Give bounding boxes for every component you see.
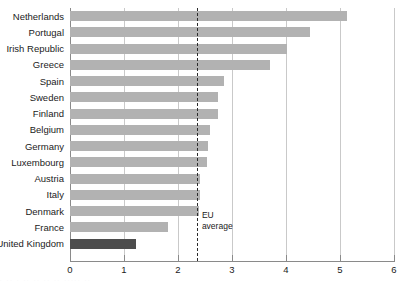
category-label-germany: Germany bbox=[25, 142, 64, 152]
bar-sweden bbox=[70, 92, 218, 102]
bar-irish-republic bbox=[70, 44, 287, 54]
plot-area: EU average bbox=[70, 8, 394, 261]
bar-row bbox=[70, 109, 394, 119]
category-label-greece: Greece bbox=[33, 60, 64, 70]
category-label-netherlands: Netherlands bbox=[13, 12, 64, 22]
bar-row bbox=[70, 239, 394, 249]
bar-austria bbox=[70, 174, 200, 184]
category-label-italy: Italy bbox=[47, 190, 64, 200]
eu-average-label-line1: EU bbox=[202, 210, 233, 221]
x-tick-label-5: 5 bbox=[337, 264, 342, 275]
bar-chart: NetherlandsPortugalIrish RepublicGreeceS… bbox=[0, 0, 403, 284]
bar-row bbox=[70, 141, 394, 151]
bar-row bbox=[70, 27, 394, 37]
bar-belgium bbox=[70, 125, 210, 135]
category-label-portugal: Portugal bbox=[29, 28, 64, 38]
x-tick-1 bbox=[124, 255, 125, 261]
x-tick-label-6: 6 bbox=[391, 264, 396, 275]
bar-italy bbox=[70, 190, 200, 200]
bar-row bbox=[70, 11, 394, 21]
category-label-united-kingdom: United Kingdom bbox=[0, 239, 64, 249]
category-label-luxembourg: Luxembourg bbox=[11, 158, 64, 168]
bar-row bbox=[70, 174, 394, 184]
bar-denmark bbox=[70, 206, 199, 216]
bar-greece bbox=[70, 60, 270, 70]
bar-row bbox=[70, 157, 394, 167]
bar-row bbox=[70, 190, 394, 200]
category-label-denmark: Denmark bbox=[25, 207, 64, 217]
category-label-sweden: Sweden bbox=[30, 93, 64, 103]
page-scan-artifacts: . .. . .. .. .. .. ..... .. bbox=[0, 276, 403, 282]
eu-average-line bbox=[197, 8, 198, 261]
bar-germany bbox=[70, 141, 208, 151]
bar-row bbox=[70, 92, 394, 102]
category-label-spain: Spain bbox=[40, 77, 64, 87]
bar-france bbox=[70, 222, 168, 232]
category-label-belgium: Belgium bbox=[30, 125, 64, 135]
x-tick-0 bbox=[70, 255, 71, 261]
x-tick-label-0: 0 bbox=[67, 264, 72, 275]
bar-netherlands bbox=[70, 11, 347, 21]
category-label-france: France bbox=[34, 223, 64, 233]
bar-luxembourg bbox=[70, 157, 207, 167]
eu-average-label: EU average bbox=[202, 210, 233, 231]
gridline-6 bbox=[394, 8, 395, 261]
bar-row bbox=[70, 125, 394, 135]
x-tick-4 bbox=[286, 255, 287, 261]
x-axis-line bbox=[70, 261, 395, 262]
bar-finland bbox=[70, 109, 218, 119]
x-tick-3 bbox=[232, 255, 233, 261]
x-tick-label-2: 2 bbox=[175, 264, 180, 275]
x-tick-label-1: 1 bbox=[121, 264, 126, 275]
bar-spain bbox=[70, 76, 224, 86]
bar-row bbox=[70, 60, 394, 70]
bar-united-kingdom bbox=[70, 239, 136, 249]
category-label-irish-republic: Irish Republic bbox=[6, 44, 64, 54]
bar-row bbox=[70, 76, 394, 86]
category-label-austria: Austria bbox=[34, 174, 64, 184]
x-tick-label-3: 3 bbox=[229, 264, 234, 275]
bar-row bbox=[70, 44, 394, 54]
x-tick-6 bbox=[394, 255, 395, 261]
x-tick-2 bbox=[178, 255, 179, 261]
x-tick-label-4: 4 bbox=[283, 264, 288, 275]
eu-average-label-line2: average bbox=[202, 221, 233, 232]
bar-portugal bbox=[70, 27, 310, 37]
category-label-finland: Finland bbox=[33, 109, 64, 119]
x-tick-5 bbox=[340, 255, 341, 261]
